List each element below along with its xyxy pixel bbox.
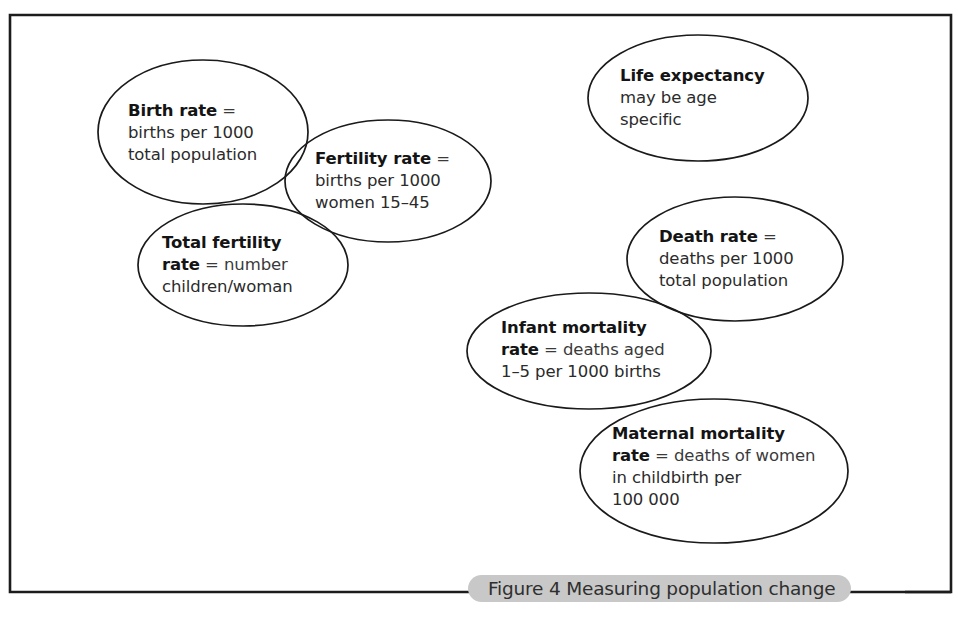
fertility-rate-line2: births per 1000: [315, 170, 450, 192]
maternal-mortality-rate-line4: 100 000: [612, 489, 815, 511]
fertility-rate-line3: women 15–45: [315, 192, 450, 214]
equals-expression: = number: [200, 255, 288, 274]
life-expectancy-line3: specific: [620, 109, 765, 131]
term-birth-rate: Birth rate: [128, 101, 217, 120]
node-label-infant-mortality-rate: Infant mortality rate = deaths aged 1–5 …: [501, 317, 665, 383]
life-expectancy-line2: may be age: [620, 87, 765, 109]
equals-expression: = deaths of women: [650, 446, 815, 465]
death-rate-line3: total population: [659, 270, 794, 292]
term-death-rate: Death rate: [659, 227, 758, 246]
node-label-life-expectancy: Life expectancy may be age specific: [620, 65, 765, 131]
figure-caption-text: Figure 4 Measuring population change: [488, 578, 835, 599]
maternal-mortality-rate-line3: in childbirth per: [612, 467, 815, 489]
node-label-maternal-mortality-rate: Maternal mortality rate = deaths of wome…: [612, 423, 815, 511]
node-label-birth-rate: Birth rate = births per 1000 total popul…: [128, 100, 257, 166]
death-rate-line2: deaths per 1000: [659, 248, 794, 270]
equals-sign: =: [758, 227, 777, 246]
node-label-death-rate: Death rate = deaths per 1000 total popul…: [659, 226, 794, 292]
birth-rate-line3: total population: [128, 144, 257, 166]
equals-sign: =: [217, 101, 236, 120]
term-infant-mortality-rate-cont: rate: [501, 340, 539, 359]
total-fertility-rate-line3: children/woman: [162, 276, 293, 298]
term-maternal-mortality-rate: Maternal mortality: [612, 424, 785, 443]
birth-rate-line2: births per 1000: [128, 122, 257, 144]
figure-caption-pill: Figure 4 Measuring population change: [468, 575, 851, 602]
term-total-fertility-rate: Total fertility: [162, 233, 281, 252]
term-total-fertility-rate-cont: rate: [162, 255, 200, 274]
equals-sign: =: [431, 149, 450, 168]
term-maternal-mortality-rate-cont: rate: [612, 446, 650, 465]
term-infant-mortality-rate: Infant mortality: [501, 318, 647, 337]
diagram-canvas: [0, 0, 958, 617]
infant-mortality-rate-line3: 1–5 per 1000 births: [501, 361, 665, 383]
figure-container: Birth rate = births per 1000 total popul…: [0, 0, 958, 617]
term-fertility-rate: Fertility rate: [315, 149, 431, 168]
term-life-expectancy: Life expectancy: [620, 66, 765, 85]
equals-expression: = deaths aged: [539, 340, 665, 359]
node-label-fertility-rate: Fertility rate = births per 1000 women 1…: [315, 148, 450, 214]
node-label-total-fertility-rate: Total fertility rate = number children/w…: [162, 232, 293, 298]
